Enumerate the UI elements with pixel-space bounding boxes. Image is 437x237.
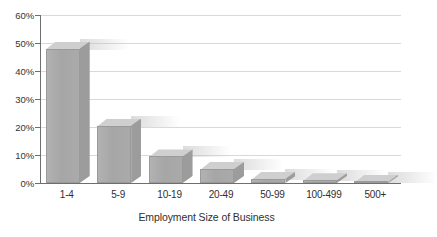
y-axis-tick-60: [35, 15, 40, 16]
x-tick-label-500+: 500+: [350, 188, 401, 201]
bar-front-face: [149, 156, 183, 183]
x-tick-label-1-4: 1-4: [41, 188, 92, 201]
bar-front-face: [251, 179, 285, 183]
x-axis-title: Employment Size of Business: [0, 210, 413, 224]
x-tick-label-5-9: 5-9: [92, 188, 143, 201]
y-tick-label-40: 40%: [0, 67, 34, 77]
bar-side-face: [80, 42, 90, 183]
y-axis-tick-0: [35, 183, 40, 184]
bar-side-face: [131, 119, 141, 183]
bar-100-499[interactable]: [303, 173, 347, 183]
x-tick-label-50-99: 50-99: [247, 188, 298, 201]
x-tick-label-100-499: 100-499: [298, 188, 349, 201]
x-axis-labels: 1-45-910-1920-4950-99100-499500+: [41, 188, 413, 204]
bar-50-99[interactable]: [251, 172, 295, 183]
y-tick-label-0: 0%: [0, 179, 34, 189]
bar-10-19[interactable]: [149, 149, 193, 183]
bar-front-face: [200, 169, 234, 183]
y-axis-tick-30: [35, 99, 40, 100]
x-tick-label-20-49: 20-49: [195, 188, 246, 201]
y-tick-label-50: 50%: [0, 39, 34, 49]
bar-1-4[interactable]: [46, 42, 90, 183]
y-axis-tick-20: [35, 127, 40, 128]
y-axis-tick-50: [35, 43, 40, 44]
bar-front-face: [303, 180, 337, 183]
bar-20-49[interactable]: [200, 162, 244, 183]
bar-5-9[interactable]: [97, 119, 141, 183]
y-tick-label-60: 60%: [0, 11, 34, 21]
y-axis-tick-10: [35, 155, 40, 156]
x-tick-label-10-19: 10-19: [144, 188, 195, 201]
y-axis-tick-40: [35, 71, 40, 72]
y-axis-labels: 60% 50% 40% 30% 20% 10% 0%: [0, 0, 34, 237]
bars-layer: [41, 15, 401, 183]
bar-500+[interactable]: [354, 175, 398, 183]
bar-front-face: [97, 126, 131, 183]
y-tick-label-30: 30%: [0, 95, 34, 105]
bar-front-face: [354, 181, 388, 183]
y-tick-label-10: 10%: [0, 151, 34, 161]
bar-front-face: [46, 49, 80, 183]
gridline-baseline-0: [41, 183, 401, 184]
y-tick-label-20: 20%: [0, 123, 34, 133]
